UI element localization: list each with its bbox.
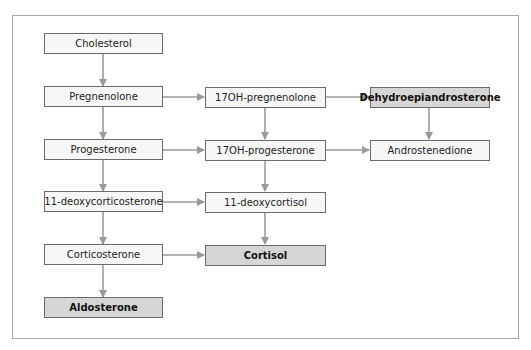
node-label: Corticosterone [67,249,140,260]
node-aldosterone: Aldosterone [44,297,163,318]
node-11-deoxycortisol: 11-deoxycortisol [205,192,326,213]
node-17oh-progesterone: 17OH-progesterone [205,140,326,161]
node-label: 17OH-pregnenolone [215,92,316,103]
node-label: Cortisol [244,250,288,261]
node-cholesterol: Cholesterol [44,33,163,54]
node-corticosterone: Corticosterone [44,244,163,265]
node-label: 11-deoxycorticosterone [44,196,162,207]
node-label: Aldosterone [69,302,137,313]
node-androstenedione: Androstenedione [370,140,490,161]
node-progesterone: Progesterone [44,139,163,160]
node-11-deoxycorticosterone: 11-deoxycorticosterone [44,191,163,212]
node-label: Androstenedione [387,145,472,156]
node-dehydroepiandrosterone: Dehydroepiandrosterone [370,87,490,108]
node-17oh-pregnenolone: 17OH-pregnenolone [205,87,326,108]
node-label: Dehydroepiandrosterone [359,92,500,103]
node-label: Cholesterol [75,38,131,49]
node-label: Pregnenolone [69,91,138,102]
node-label: 11-deoxycortisol [224,197,307,208]
node-cortisol: Cortisol [205,245,326,266]
node-pregnenolone: Pregnenolone [44,86,163,107]
node-label: 17OH-progesterone [216,145,314,156]
node-label: Progesterone [70,144,136,155]
